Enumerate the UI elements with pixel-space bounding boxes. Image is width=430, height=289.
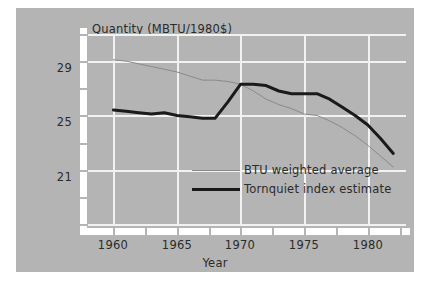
gridline-horizontal-17: [88, 224, 406, 226]
chart-panel: Quantity (MBTU/1980$): [16, 8, 414, 272]
y-tick-27: [80, 88, 87, 90]
x-axis-band: [80, 228, 410, 235]
y-tick-19: [80, 197, 87, 199]
x-tick-1962: [145, 228, 147, 235]
legend-item-tornquiet: Tornquiet index estimate: [192, 179, 392, 198]
y-tick-29: [80, 61, 87, 63]
y-tick-25: [80, 115, 87, 117]
y-tick-label-21: 21: [32, 170, 72, 184]
x-tick-1977: [336, 228, 338, 235]
y-tick-31: [80, 34, 87, 36]
legend-item-btu: BTU weighted average: [192, 160, 392, 179]
x-tick-1960: [113, 228, 115, 235]
x-tick-1965: [177, 228, 179, 235]
y-axis-band: [80, 28, 87, 235]
chart-legend: BTU weighted average Tornquiet index est…: [192, 160, 392, 198]
x-axis-title: Year: [16, 256, 414, 270]
x-tick-1975: [304, 228, 306, 235]
x-tick-label-1975: 1975: [274, 238, 334, 252]
y-tick-21: [80, 170, 87, 172]
x-tick-1980: [368, 228, 370, 235]
x-tick-1972: [272, 228, 274, 235]
x-tick-label-1960: 1960: [83, 238, 143, 252]
x-tick-1967: [209, 228, 211, 235]
legend-line-icon-gray: [192, 163, 240, 177]
chart-figure: Quantity (MBTU/1980$): [0, 0, 430, 289]
x-tick-label-1965: 1965: [147, 238, 207, 252]
y-tick-label-29: 29: [32, 61, 72, 75]
y-tick-17: [80, 224, 87, 226]
x-tick-label-1970: 1970: [210, 238, 270, 252]
series-line-1: [113, 84, 393, 153]
legend-label-btu: BTU weighted average: [240, 163, 379, 177]
y-tick-23: [80, 143, 87, 145]
legend-line-icon-black: [192, 182, 240, 196]
x-tick-1970: [240, 228, 242, 235]
legend-label-tornquiet: Tornquiet index estimate: [240, 182, 391, 196]
y-tick-label-25: 25: [32, 115, 72, 129]
x-tick-1982: [400, 228, 402, 235]
x-tick-label-1980: 1980: [338, 238, 398, 252]
